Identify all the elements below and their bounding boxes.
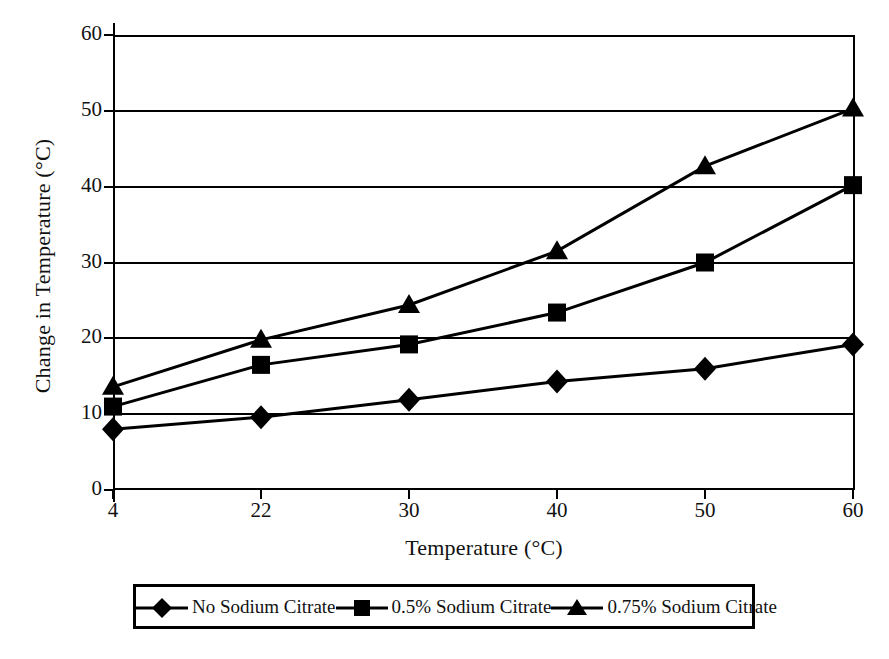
legend-item-1[interactable]: No Sodium Citrate	[136, 597, 336, 616]
y-tick-mark	[104, 186, 113, 188]
diamond-legend-icon	[136, 598, 188, 618]
y-tick-mark	[104, 110, 113, 112]
series-line	[113, 185, 853, 406]
y-tick-label: 10	[56, 400, 102, 425]
square-marker	[104, 398, 122, 416]
legend-item-label: 0.5% Sodium Citrate	[392, 597, 552, 616]
triangle-marker	[546, 240, 568, 259]
legend-swatch	[551, 598, 603, 616]
y-tick-mark	[104, 34, 113, 36]
chart-legend: No Sodium Citrate0.5% Sodium Citrate0.75…	[133, 584, 755, 629]
x-tick-label: 60	[823, 498, 883, 523]
x-tick-label: 30	[379, 498, 439, 523]
y-tick-label: 60	[56, 21, 102, 46]
diamond-marker	[398, 388, 420, 412]
y-tick-label: 30	[56, 249, 102, 274]
plot-area	[113, 35, 855, 490]
y-tick-label: 40	[56, 173, 102, 198]
diamond-marker	[102, 417, 124, 441]
legend-swatch	[136, 598, 188, 616]
diamond-marker	[546, 370, 568, 394]
legend-item-label: No Sodium Citrate	[192, 597, 336, 616]
triangle-marker	[842, 98, 864, 117]
triangle-legend-icon	[551, 598, 603, 618]
series-1	[102, 332, 864, 441]
square-marker	[400, 335, 418, 353]
square-marker	[844, 176, 862, 194]
series-line	[113, 109, 853, 387]
square-marker	[696, 254, 714, 272]
y-tick-mark	[104, 262, 113, 264]
square-legend-icon	[336, 598, 388, 618]
legend-item-2[interactable]: 0.5% Sodium Citrate	[336, 597, 552, 616]
series-line	[113, 344, 853, 429]
diamond-marker	[694, 357, 716, 381]
x-tick-label: 22	[231, 498, 291, 523]
x-axis-tick-labels: 42230405060	[113, 498, 855, 528]
diamond-marker	[250, 405, 272, 429]
x-tick-label: 40	[527, 498, 587, 523]
square-marker	[252, 356, 270, 374]
series-2	[104, 176, 862, 415]
legend-item-label: 0.75% Sodium Citrate	[607, 597, 776, 616]
square-marker	[548, 304, 566, 322]
y-axis-tick-labels: 0102030405060	[56, 35, 102, 490]
y-axis-title: Change in Temperature (°C)	[30, 56, 56, 476]
y-tick-mark	[104, 337, 113, 339]
diamond-marker	[842, 332, 864, 356]
line-chart-figure: Change in Temperature (°C) 0102030405060…	[0, 0, 889, 659]
x-axis-title: Temperature (°C)	[113, 535, 855, 561]
legend-item-3[interactable]: 0.75% Sodium Citrate	[551, 597, 776, 616]
legend-swatch	[336, 598, 388, 616]
y-tick-label: 20	[56, 324, 102, 349]
y-tick-label: 50	[56, 97, 102, 122]
x-tick-label: 50	[675, 498, 735, 523]
data-series-layer	[113, 35, 855, 490]
x-tick-label: 4	[83, 498, 143, 523]
series-3	[102, 98, 864, 395]
